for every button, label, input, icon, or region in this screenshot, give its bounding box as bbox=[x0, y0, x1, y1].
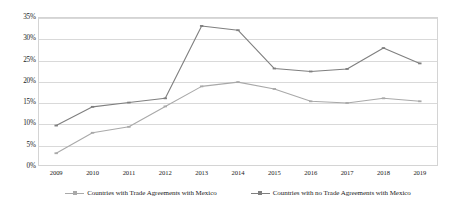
data-point-marker bbox=[236, 81, 239, 83]
data-point-marker bbox=[418, 100, 421, 102]
chart-legend: Countries with Trade Agreements with Mex… bbox=[38, 186, 438, 200]
x-axis-tick-label: 2011 bbox=[112, 168, 146, 177]
data-point-marker bbox=[382, 97, 385, 99]
x-axis-tick-label: 2017 bbox=[330, 168, 364, 177]
legend-key-icon bbox=[65, 190, 84, 197]
series-line bbox=[56, 26, 420, 126]
x-axis-tick-label: 2012 bbox=[148, 168, 182, 177]
data-point-marker bbox=[164, 97, 167, 99]
data-point-marker bbox=[54, 125, 57, 127]
data-point-marker bbox=[273, 68, 276, 70]
data-point-marker bbox=[418, 63, 421, 65]
data-point-marker bbox=[236, 29, 239, 31]
data-point-marker bbox=[345, 68, 348, 70]
legend-item-1[interactable]: Countries with Trade Agreements with Mex… bbox=[65, 189, 216, 197]
x-axis-tick-label: 2015 bbox=[257, 168, 291, 177]
x-axis-tick-label: 2019 bbox=[403, 168, 437, 177]
x-axis-tick-label: 2009 bbox=[39, 168, 73, 177]
data-point-marker bbox=[273, 88, 276, 90]
y-axis: 0%5%10%15%20%25%30%35% bbox=[0, 17, 36, 166]
y-axis-tick-label: 5% bbox=[2, 141, 36, 149]
data-point-marker bbox=[54, 152, 57, 154]
data-point-marker bbox=[164, 106, 167, 108]
x-axis-tick-label: 2016 bbox=[294, 168, 328, 177]
y-axis-tick-label: 10% bbox=[2, 119, 36, 127]
x-axis: 2009201020112012201320142015201620172018… bbox=[38, 168, 438, 180]
data-point-marker bbox=[200, 25, 203, 27]
series-2 bbox=[54, 25, 421, 126]
data-point-marker bbox=[200, 85, 203, 87]
y-axis-tick-label: 0% bbox=[2, 162, 36, 170]
data-point-marker bbox=[345, 102, 348, 104]
x-axis-tick-label: 2013 bbox=[185, 168, 219, 177]
y-axis-tick-label: 20% bbox=[2, 77, 36, 85]
data-point-marker bbox=[309, 71, 312, 73]
data-point-marker bbox=[127, 126, 130, 128]
legend-item-label: Countries with Trade Agreements with Mex… bbox=[87, 189, 216, 197]
x-axis-tick-label: 2018 bbox=[366, 168, 400, 177]
series-1 bbox=[54, 81, 421, 154]
legend-item-2[interactable]: Countries with no Trade Agreements with … bbox=[251, 189, 411, 197]
y-axis-tick-label: 35% bbox=[2, 13, 36, 21]
data-point-marker bbox=[91, 106, 94, 108]
data-point-marker bbox=[309, 100, 312, 102]
data-point-marker bbox=[91, 132, 94, 134]
series-line bbox=[56, 82, 420, 153]
x-axis-tick-label: 2010 bbox=[76, 168, 110, 177]
series-layer bbox=[38, 17, 438, 166]
y-axis-tick-label: 25% bbox=[2, 56, 36, 64]
legend-item-label: Countries with no Trade Agreements with … bbox=[273, 189, 411, 197]
line-chart: 0%5%10%15%20%25%30%35% 20092010201120122… bbox=[0, 0, 453, 215]
x-axis-tick-label: 2014 bbox=[221, 168, 255, 177]
y-axis-tick-label: 15% bbox=[2, 98, 36, 106]
data-point-marker bbox=[127, 102, 130, 104]
y-axis-tick-label: 30% bbox=[2, 34, 36, 42]
data-point-marker bbox=[382, 47, 385, 49]
legend-key-icon bbox=[251, 190, 270, 197]
